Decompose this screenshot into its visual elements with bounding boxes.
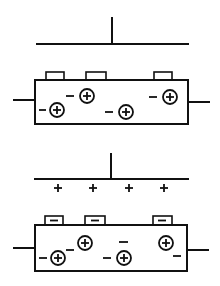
surface-tab <box>154 72 172 80</box>
particle-body <box>14 72 209 124</box>
particle-body <box>14 216 208 271</box>
plus-icon <box>89 184 97 192</box>
plus-icon <box>54 184 62 192</box>
electrode-plate <box>35 154 188 179</box>
surface-tab <box>46 72 64 80</box>
panel-charged <box>14 154 208 271</box>
plus-icon <box>160 184 168 192</box>
dipole <box>159 236 181 256</box>
surface-tab <box>86 72 106 80</box>
plate-charges <box>54 184 168 192</box>
dipole <box>105 105 133 119</box>
dipole <box>39 103 64 117</box>
dipole <box>39 251 65 265</box>
dipole <box>149 90 177 104</box>
charge-diagram <box>0 0 220 286</box>
dipole <box>103 251 131 265</box>
plus-icon <box>125 184 133 192</box>
panel-uncharged <box>14 18 209 124</box>
dipole <box>66 89 94 103</box>
electrode-plate <box>37 18 188 44</box>
dipole <box>66 236 92 250</box>
